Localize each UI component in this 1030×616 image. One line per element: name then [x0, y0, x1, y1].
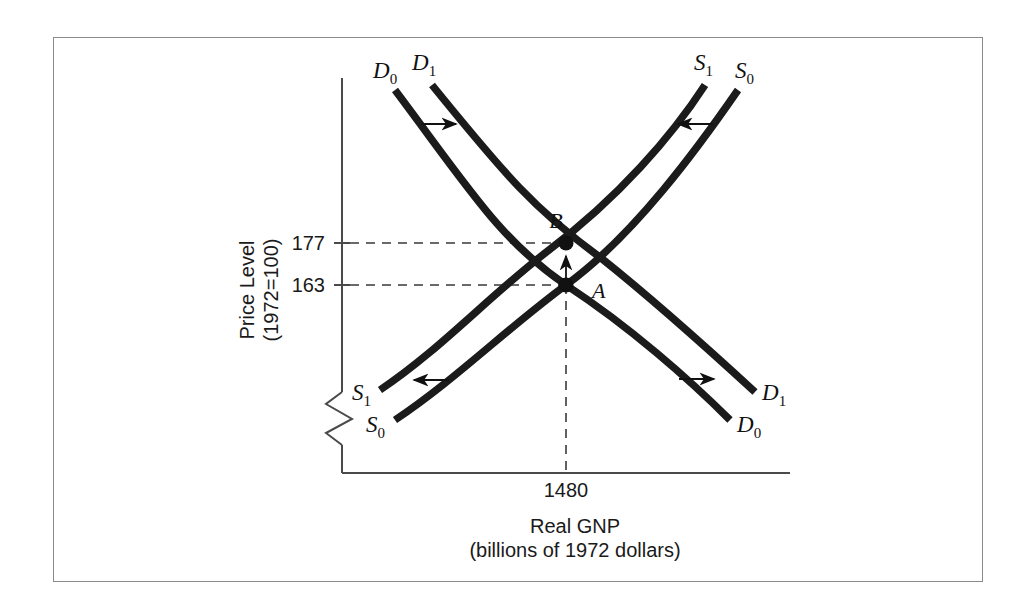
s1-letter-top: S	[694, 50, 706, 75]
d0-sub-bottom: 0	[754, 425, 762, 441]
point-b-label: B	[549, 208, 562, 233]
y-tick-label-163: 163	[292, 274, 325, 296]
d1-sub-top: 1	[429, 63, 437, 79]
x-axis-title-line1: Real GNP	[530, 515, 620, 537]
s1-sub-bottom: 1	[364, 393, 372, 409]
y-axis-break	[326, 392, 352, 445]
curve-label-d1-bottom: D1	[761, 380, 786, 409]
curve-label-s0-bottom: S0	[366, 412, 385, 441]
d1-letter-bottom: D	[761, 380, 779, 405]
curve-label-s1-top: S1	[694, 50, 713, 79]
point-a-label: A	[590, 278, 606, 303]
curve-label-d1-top: D1	[411, 50, 436, 79]
figure-root: B A D0 D1 S1 S0 S1 S0 D1 D0 177	[0, 0, 1030, 616]
d0-sub-top: 0	[390, 71, 398, 87]
s1-letter-bottom: S	[352, 380, 364, 405]
equilibrium-point-b	[559, 236, 574, 251]
s1-sub-top: 1	[706, 63, 714, 79]
chart-canvas: B A D0 D1 S1 S0 S1 S0 D1 D0 177	[0, 0, 1030, 616]
y-axis-title-line1: Price Level	[236, 241, 258, 340]
equilibrium-point-a	[559, 278, 574, 293]
x-tick-label-1480: 1480	[544, 479, 589, 501]
curve-label-s1-bottom: S1	[352, 380, 371, 409]
s0-letter-top: S	[735, 58, 747, 83]
d1-sub-bottom: 1	[779, 393, 787, 409]
s0-sub-bottom: 0	[378, 425, 386, 441]
y-axis-title-line2: (1972=100)	[260, 239, 282, 342]
curve-d0	[395, 90, 730, 420]
x-axis-title-line2: (billions of 1972 dollars)	[469, 539, 680, 561]
d1-letter-top: D	[411, 50, 429, 75]
y-tick-label-177: 177	[292, 232, 325, 254]
d0-letter-bottom: D	[736, 412, 754, 437]
curve-label-d0-bottom: D0	[736, 412, 761, 441]
curve-label-s0-top: S0	[735, 58, 754, 87]
d0-letter-top: D	[372, 58, 390, 83]
curve-label-d0-top: D0	[372, 58, 397, 87]
s0-letter-bottom: S	[366, 412, 378, 437]
s0-sub-top: 0	[747, 71, 755, 87]
